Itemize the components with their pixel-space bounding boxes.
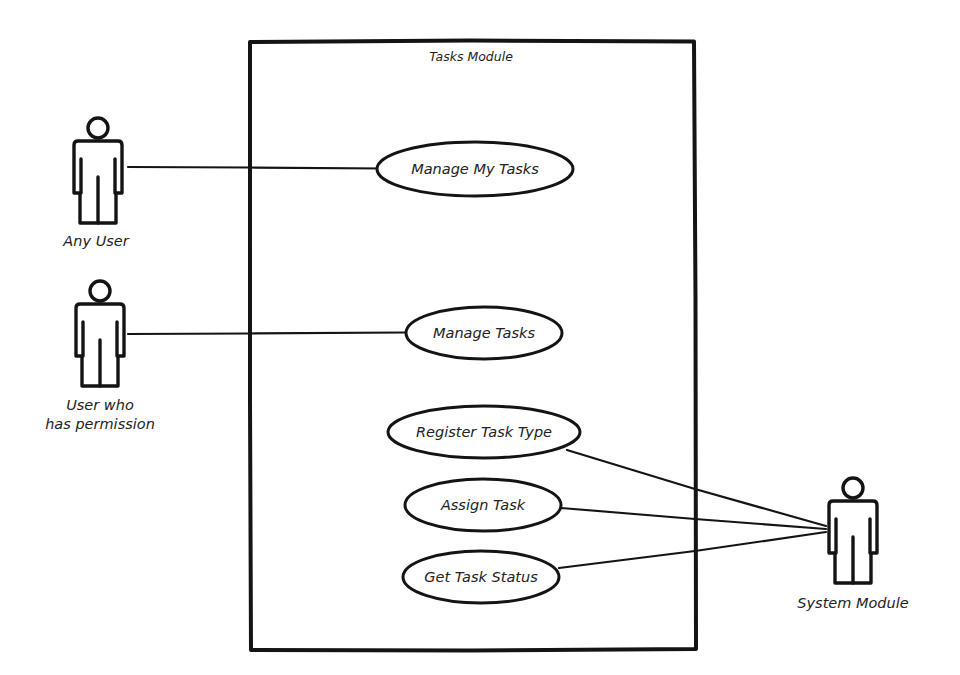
actor-label-line-2: has permission (45, 416, 155, 432)
system-boundary-title: Tasks Module (429, 49, 513, 64)
use-case-label: Manage Tasks (433, 325, 535, 341)
use-case-manage-tasks: Manage Tasks (406, 307, 562, 359)
actor-system-module: System Module (797, 478, 908, 611)
actor-any-user: Any User (62, 118, 129, 249)
use-case-label: Assign Task (440, 497, 526, 513)
association-any-user-manage-my-tasks (128, 167, 397, 169)
actor-user-with-permission: User who has permission (45, 281, 155, 432)
use-case-manage-my-tasks: Manage My Tasks (377, 142, 573, 196)
actor-icon (829, 478, 877, 583)
actor-icon (74, 118, 122, 223)
association-user-with-permission-manage-tasks (128, 333, 405, 335)
actor-label-line-1: User who (66, 397, 134, 413)
use-case-diagram: Tasks Module Manage My Tasks Manage Task… (0, 0, 960, 675)
use-case-assign-task: Assign Task (405, 479, 561, 531)
association-system-module-assign-task (561, 508, 826, 529)
use-case-label: Register Task Type (416, 424, 552, 440)
actor-icon (76, 281, 124, 386)
use-case-register-task-type: Register Task Type (388, 406, 580, 458)
use-cases: Manage My Tasks Manage Tasks Register Ta… (377, 142, 580, 603)
use-case-label: Manage My Tasks (411, 161, 539, 177)
association-system-module-get-task-status (559, 532, 826, 568)
actor-label: Any User (62, 233, 129, 249)
use-case-label: Get Task Status (424, 569, 538, 585)
use-case-get-task-status: Get Task Status (403, 551, 559, 603)
actor-label: System Module (797, 595, 908, 611)
